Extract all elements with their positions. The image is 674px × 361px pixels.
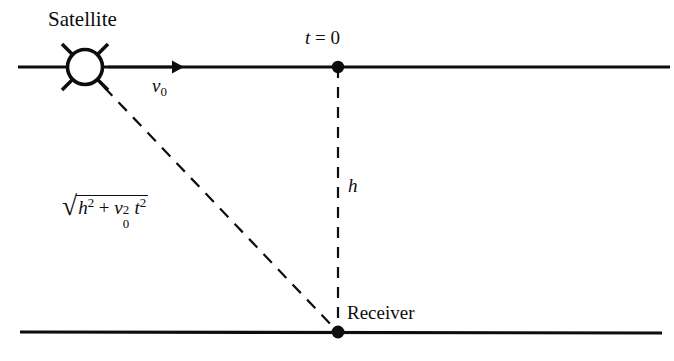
- radicand-h: h: [78, 196, 88, 217]
- radicand-v: v: [114, 196, 122, 217]
- radicand: h2 + v20t2: [76, 195, 148, 217]
- height-label: h: [348, 176, 358, 195]
- t-zero-value: 0: [331, 27, 341, 48]
- receiver-dot: [332, 326, 345, 339]
- t-zero-label: t = 0: [305, 28, 340, 47]
- satellite-icon: [62, 44, 108, 90]
- t-zero-equals: =: [315, 27, 326, 48]
- radicand-plus: +: [99, 196, 110, 217]
- t-zero-dot: [332, 61, 344, 73]
- velocity-label: v0: [152, 76, 167, 99]
- diagram-canvas: [0, 0, 674, 361]
- velocity-arrow: [108, 61, 184, 74]
- receiver-label: Receiver: [347, 303, 415, 322]
- satellite-geometry-figure: Satellite t = 0 v0 h Receiver √h2 + v20t…: [0, 0, 674, 361]
- radical-sign: √: [62, 192, 77, 220]
- radicand-t-exponent: 2: [140, 195, 146, 210]
- slant-range-label: √h2 + v20t2: [62, 192, 148, 220]
- radicand-v-subscript: 0: [123, 218, 129, 231]
- satellite-label: Satellite: [48, 9, 117, 30]
- velocity-subscript: 0: [160, 84, 166, 99]
